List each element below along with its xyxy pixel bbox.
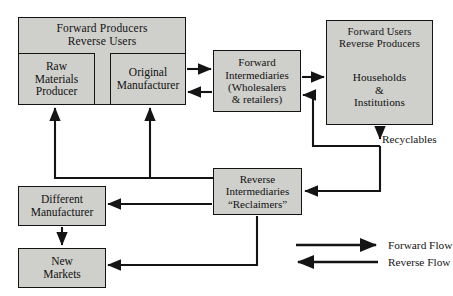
box-line-1: Reverse [240, 173, 275, 185]
box-line-2: Intermediaries [226, 185, 290, 197]
arrow-reverse-to-original [150, 108, 213, 178]
group-header-forward-producers-text: Forward Producers Reverse Users [56, 22, 147, 48]
supply-chain-diagram: Forward Producers Reverse Users Forward … [0, 0, 453, 296]
legend-label-forward-flow: Forward Flow [388, 239, 452, 251]
group-header-line-1: Forward Users [348, 26, 412, 37]
box-new-markets: New Markets [18, 248, 106, 288]
box-reverse-intermediaries: Reverse Intermediaries “Reclaimers” [213, 168, 302, 215]
box-line-2: Materials [35, 73, 78, 85]
box-different-manufacturer-text: Different Manufacturer [29, 193, 96, 219]
box-raw-materials-producer-text: Raw Materials Producer [33, 60, 80, 99]
arrow-reverse-to-raw [55, 108, 213, 178]
box-original-manufacturer-text: Original Manufacturer [115, 66, 182, 92]
group-header-forward-users: Forward Users Reverse Producers [326, 20, 433, 56]
group-header-forward-producers: Forward Producers Reverse Users [18, 17, 186, 53]
box-line-3: “Reclaimers” [228, 198, 287, 210]
box-line-2: Markets [43, 268, 81, 280]
label-recyclables: Recyclables [382, 133, 437, 145]
box-original-manufacturer: Original Manufacturer [110, 53, 186, 105]
group-header-line-2: Reverse Producers [339, 38, 420, 49]
box-line-2: Manufacturer [117, 79, 180, 91]
box-line-2: Intermediaries [225, 69, 289, 81]
box-line-1: Original [129, 66, 167, 78]
box-line-4: & retailers) [232, 93, 282, 105]
box-new-markets-text: New Markets [41, 255, 83, 281]
box-forward-intermediaries: Forward Intermediaries (Wholesalers & re… [213, 50, 301, 112]
box-line-2: & [375, 84, 384, 96]
box-line-1: Raw [46, 60, 67, 72]
group-header-line-2: Reverse Users [68, 35, 137, 47]
arrow-reverse-to-new-markets [108, 216, 257, 265]
box-line-2: Manufacturer [31, 206, 94, 218]
box-different-manufacturer: Different Manufacturer [18, 186, 106, 226]
box-line-1: New [51, 255, 73, 267]
box-line-3: Institutions [354, 96, 405, 108]
box-line-3: (Wholesalers [228, 81, 286, 93]
box-line-1: Different [41, 193, 83, 205]
box-households-institutions: Households & Institutions [326, 56, 433, 125]
box-line-1: Forward [238, 56, 275, 68]
box-raw-materials-producer: Raw Materials Producer [18, 53, 95, 105]
box-reverse-intermediaries-text: Reverse Intermediaries “Reclaimers” [224, 173, 292, 210]
group-header-line-1: Forward Producers [56, 22, 147, 34]
legend-label-reverse-flow: Reverse Flow [388, 256, 450, 268]
box-line-3: Producer [36, 85, 78, 97]
box-forward-intermediaries-text: Forward Intermediaries (Wholesalers & re… [223, 56, 291, 105]
box-households-institutions-text: Households & Institutions [351, 71, 408, 109]
group-header-forward-users-text: Forward Users Reverse Producers [339, 26, 420, 50]
arrow-recyclables-to-reverse [305, 146, 380, 191]
box-line-1: Households [353, 71, 406, 83]
